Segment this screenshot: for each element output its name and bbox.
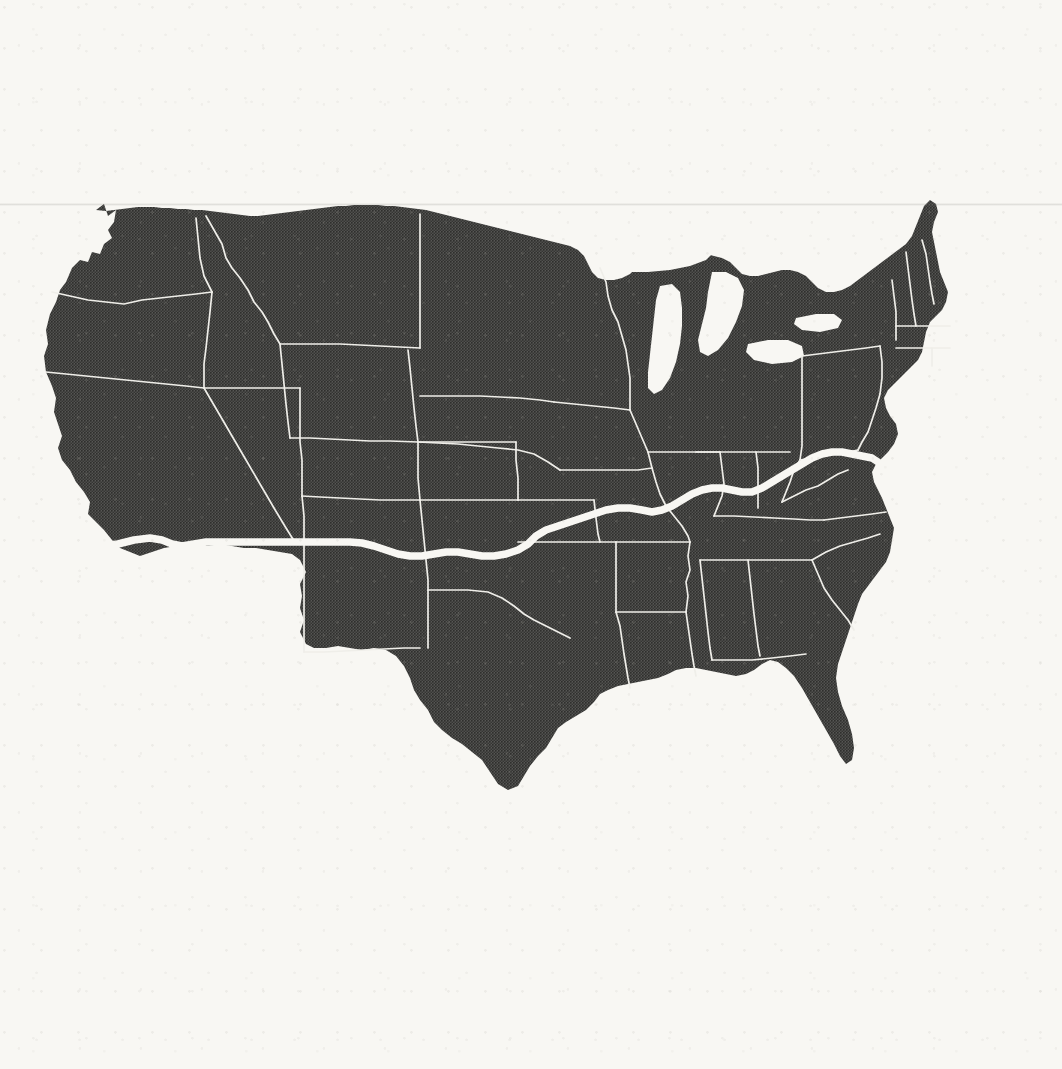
united-states-map-graphic xyxy=(0,0,1062,1069)
us-map-figure xyxy=(0,0,1062,1069)
scanned-map-page xyxy=(0,0,1062,1069)
landmass-group xyxy=(44,200,948,790)
contiguous-us-landmass xyxy=(44,200,948,790)
